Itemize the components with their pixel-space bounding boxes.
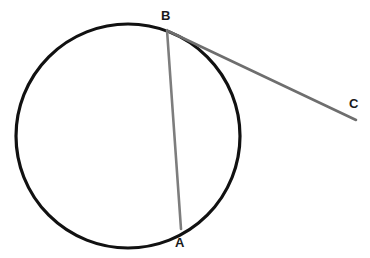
point-label-c: C [349,97,358,110]
point-label-b: B [161,9,170,22]
circle-shape [16,24,240,248]
diagram-canvas: B A C [0,0,370,258]
point-label-a: A [175,236,184,249]
geometry-figure [0,0,370,258]
tangent-bc-line [168,31,356,120]
chord-ab-line [167,30,181,229]
